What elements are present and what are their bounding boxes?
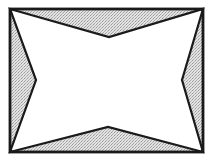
wedge-rectangle-diagram: [0, 0, 212, 159]
